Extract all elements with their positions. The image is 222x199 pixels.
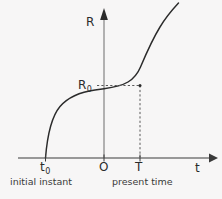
diagram-canvas (0, 0, 222, 199)
r-zero-subscript: 0 (87, 85, 92, 94)
t-zero-subscript: 0 (45, 167, 50, 176)
r-zero-base: R (78, 78, 86, 92)
arrow-up-icon (100, 8, 108, 20)
scale-axis-label: R (86, 16, 94, 28)
present-tick-label: T (135, 161, 142, 173)
origin-tick-label: O (99, 161, 108, 173)
arrow-right-icon (209, 154, 218, 163)
scale-factor-curve (46, 3, 179, 158)
t-zero-base: t (40, 160, 45, 174)
r-zero-label: R0 (78, 79, 91, 91)
time-axis-label: t (195, 162, 200, 174)
initial-instant-caption: initial instant (10, 177, 72, 187)
present-time-caption: present time (112, 177, 173, 187)
scale-factor-diagram: R t R0 t0 O T initial instant present ti… (0, 0, 222, 199)
present-value-marker (139, 84, 142, 87)
t-zero-tick-label: t0 (40, 161, 50, 173)
